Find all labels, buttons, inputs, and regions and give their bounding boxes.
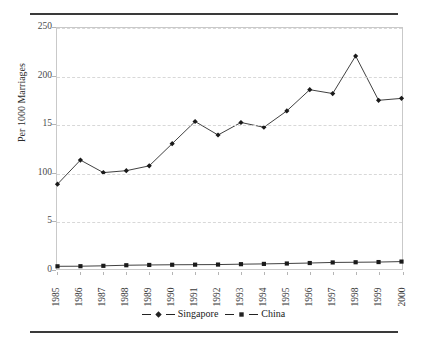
- x-axis-tick-mark: [241, 272, 242, 275]
- y-axis-tick-label: 15: [26, 119, 52, 129]
- x-axis-tick-mark: [80, 272, 81, 275]
- y-axis-tick-label: 5: [26, 217, 52, 227]
- square-marker-icon: [237, 310, 246, 319]
- y-axis-tick-labels: 0510015200250: [22, 27, 52, 270]
- data-point-marker: [308, 261, 312, 265]
- y-axis-tick-label: 100: [26, 168, 52, 178]
- x-axis-tick-label: 1988: [120, 287, 130, 306]
- x-axis-tick-label: 1989: [143, 287, 153, 306]
- data-point-marker: [330, 91, 335, 96]
- data-point-marker: [124, 168, 129, 173]
- data-point-marker: [215, 132, 220, 137]
- x-axis-tick-mark: [356, 272, 357, 275]
- x-axis-tick-mark: [172, 272, 173, 275]
- x-axis-tick-mark: [403, 272, 404, 275]
- y-axis-tick-label: 200: [26, 71, 52, 81]
- data-point-marker: [353, 53, 358, 58]
- x-axis-tick-mark: [287, 272, 288, 275]
- x-axis-tick-labels: 1985198619871988198919901991199219931994…: [56, 272, 403, 306]
- x-axis-tick-label: 1995: [282, 287, 292, 306]
- x-axis-tick-mark: [379, 272, 380, 275]
- series-line-china: [57, 262, 401, 267]
- data-point-marker: [193, 263, 197, 267]
- x-axis-tick-mark: [195, 272, 196, 275]
- gridline: [57, 125, 402, 127]
- gridline: [57, 77, 402, 79]
- y-axis-tick-label: 250: [26, 22, 52, 32]
- x-axis-tick-label: 1998: [351, 287, 361, 306]
- data-point-marker: [285, 261, 289, 265]
- chart-legend: SingaporeChina: [0, 309, 427, 319]
- x-axis-tick-label: 1991: [189, 287, 199, 306]
- data-point-marker: [354, 260, 358, 264]
- figure-bottom-rule: [30, 331, 398, 333]
- data-point-marker: [331, 260, 335, 264]
- x-axis-tick-label: 1986: [74, 287, 84, 306]
- data-point-marker: [376, 260, 380, 264]
- legend-line-segment: [142, 314, 151, 315]
- data-point-marker: [262, 262, 266, 266]
- data-point-marker: [216, 262, 220, 266]
- gridline: [57, 222, 402, 224]
- series-layer: [57, 28, 402, 269]
- figure-container: Per 1000 Marriages 0510015200250 1985198…: [0, 0, 427, 343]
- x-axis-tick-label: 1990: [166, 287, 176, 306]
- diamond-marker-icon: [154, 310, 163, 319]
- data-point-marker: [399, 259, 403, 263]
- y-axis-tick-label: 0: [26, 265, 52, 275]
- figure-top-rule: [30, 13, 398, 15]
- data-point-marker: [78, 264, 82, 268]
- data-point-marker: [376, 98, 381, 103]
- legend-label: China: [261, 309, 285, 319]
- legend-line-segment: [249, 314, 258, 315]
- data-point-marker: [170, 263, 174, 267]
- x-axis-tick-mark: [57, 272, 58, 275]
- y-axis-tick-mark: [52, 124, 56, 125]
- data-point-marker: [399, 96, 404, 101]
- y-axis-tick-mark: [52, 221, 56, 222]
- y-axis-tick-mark: [52, 173, 56, 174]
- gridline: [57, 28, 402, 30]
- legend-line-segment: [225, 314, 234, 315]
- x-axis-tick-mark: [310, 272, 311, 275]
- x-axis-tick-mark: [149, 272, 150, 275]
- data-point-marker: [124, 263, 128, 267]
- data-point-marker: [147, 263, 151, 267]
- x-axis-tick-label: 1997: [328, 287, 338, 306]
- x-axis-tick-mark: [103, 272, 104, 275]
- x-axis-tick-mark: [126, 272, 127, 275]
- x-axis-tick-label: 1999: [374, 287, 384, 306]
- x-axis-tick-label: 1993: [236, 287, 246, 306]
- legend-item-china: China: [225, 309, 285, 319]
- legend-line-segment: [166, 314, 175, 315]
- x-axis-tick-mark: [333, 272, 334, 275]
- x-axis-tick-label: 1985: [51, 287, 61, 306]
- y-axis-tick-mark: [52, 27, 56, 28]
- legend-item-singapore: Singapore: [142, 309, 219, 319]
- legend-label: Singapore: [178, 309, 219, 319]
- data-point-marker: [239, 262, 243, 266]
- x-axis-tick-label: 1987: [97, 287, 107, 306]
- y-axis-tick-mark: [52, 76, 56, 77]
- data-point-marker: [55, 264, 59, 268]
- gridline: [57, 174, 402, 176]
- plot-area: [56, 27, 403, 270]
- x-axis-tick-label: 2000: [397, 287, 407, 306]
- series-line-singapore: [57, 56, 401, 184]
- x-axis-tick-mark: [264, 272, 265, 275]
- x-axis-tick-mark: [218, 272, 219, 275]
- x-axis-tick-label: 1996: [305, 287, 315, 306]
- y-axis-tick-mark: [52, 270, 56, 271]
- data-point-marker: [101, 264, 105, 268]
- x-axis-tick-label: 1994: [259, 287, 269, 306]
- x-axis-tick-label: 1992: [212, 287, 222, 306]
- page-masthead-fragment: [0, 0, 427, 10]
